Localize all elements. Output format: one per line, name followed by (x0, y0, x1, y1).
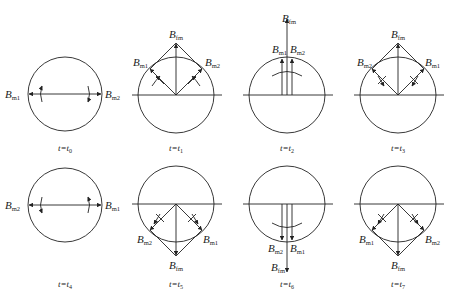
label-t1-right: Bm2 (205, 56, 220, 69)
caption-t4: t=t4 (58, 279, 72, 290)
label-t6-left: Bm2 (268, 242, 283, 255)
label-t4-right: Bm1 (105, 199, 120, 212)
arrow-bm1 (372, 204, 398, 230)
label-t1-left: Bm1 (133, 56, 148, 69)
arrow-bm1 (398, 69, 424, 95)
arrow-bm2 (176, 69, 202, 95)
label-t2-right: Bm2 (290, 43, 305, 56)
caption-t3: t=t3 (391, 143, 405, 154)
label-t6-bottom: Bfm (271, 261, 285, 274)
label-t5-bottom: Bfm (169, 259, 183, 272)
label-t3-left: Bm2 (357, 56, 372, 69)
panel-t0 (28, 57, 102, 131)
arrow-bm2 (372, 69, 398, 95)
label-t6-right: Bm1 (290, 242, 305, 255)
arrow-bm2 (398, 204, 424, 230)
caption-t2: t=t2 (280, 143, 294, 154)
panel-t4 (28, 168, 102, 242)
caption-t1: t=t1 (169, 143, 183, 154)
arrow-bm1 (150, 69, 176, 95)
panel-t6 (243, 166, 333, 272)
caption-t5: t=t5 (169, 279, 183, 290)
label-t3-right: Bm1 (425, 56, 440, 69)
label-t1-top: Bfm (169, 28, 183, 41)
label-t3-top: Bfm (391, 28, 405, 41)
label-t7-bottom: Bfm (391, 259, 405, 272)
panel-t2 (243, 19, 333, 133)
label-t5-right: Bm1 (203, 233, 218, 246)
label-t2-left: Bm1 (272, 43, 287, 56)
rotating-field-diagram: Bm1 Bm2 t=t0 Bfm Bm1 Bm2 t=t1 Bfm Bm1 Bm… (0, 0, 456, 305)
caption-t7: t=t7 (391, 279, 405, 290)
caption-t0: t=t0 (58, 143, 72, 154)
label-t0-right: Bm2 (105, 88, 120, 101)
label-t4-left: Bm2 (5, 199, 20, 212)
label-t7-right: Bm2 (425, 233, 440, 246)
label-t7-left: Bm1 (359, 233, 374, 246)
label-t0-left: Bm1 (5, 88, 20, 101)
arrow-bm2 (150, 204, 176, 230)
arrow-bm1 (176, 204, 202, 230)
label-t2-top: Bfm (282, 12, 296, 25)
caption-t6: t=t6 (280, 279, 294, 290)
label-t5-left: Bm2 (137, 233, 152, 246)
